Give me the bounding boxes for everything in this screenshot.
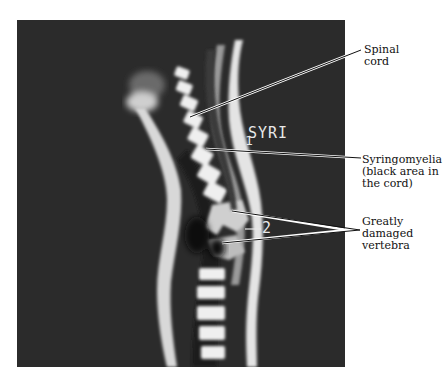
label-damaged-vertebra: Greatly damaged vertebra <box>362 216 413 252</box>
label-syringomyelia: Syringomyelia (black area in the cord) <box>362 154 442 190</box>
marker-2: 2 <box>262 219 272 237</box>
marker-1: 1 <box>245 133 254 148</box>
label-spinal-cord: Spinal cord <box>364 44 399 68</box>
mri-image: SYRI 1 2 <box>17 20 345 367</box>
scan-label-syri: SYRI <box>248 124 288 142</box>
mri-anatomy-graphic <box>17 20 345 367</box>
figure: SYRI 1 2 Spinal cord Syringomyelia (blac… <box>0 0 444 385</box>
